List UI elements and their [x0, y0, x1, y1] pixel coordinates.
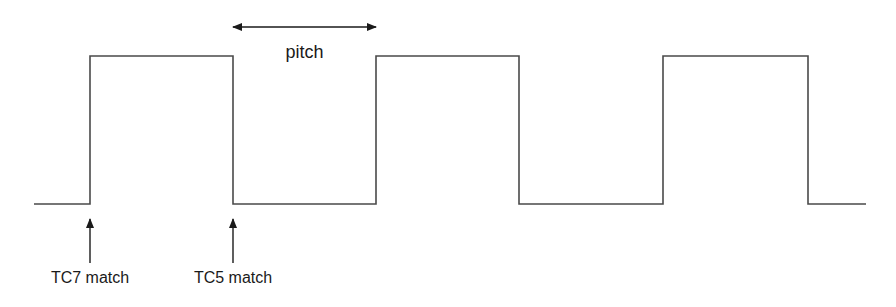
tc5-match-label: TC5 match: [194, 269, 272, 286]
pitch-label: pitch: [285, 42, 323, 62]
waveform-diagram: pitch TC7 match TC5 match: [0, 0, 896, 307]
square-wave-signal: [34, 56, 866, 204]
marker-tc7: TC7 match: [51, 219, 129, 286]
tc7-match-label: TC7 match: [51, 269, 129, 286]
marker-tc5: TC5 match: [194, 219, 272, 286]
